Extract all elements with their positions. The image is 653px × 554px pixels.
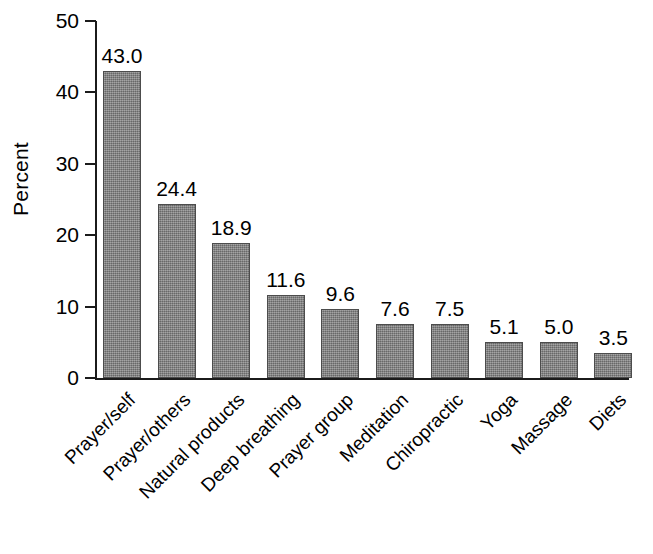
y-axis-line bbox=[95, 21, 97, 379]
bar bbox=[540, 342, 578, 378]
y-axis-tick-label: 50 bbox=[21, 10, 79, 31]
bar-value-label: 24.4 bbox=[142, 178, 212, 199]
y-axis-tick bbox=[85, 91, 96, 93]
bar bbox=[321, 309, 359, 378]
bar-chart: Percent 50403020100 43.024.418.911.69.67… bbox=[0, 0, 653, 554]
y-axis-tick bbox=[85, 20, 96, 22]
bar-value-label: 3.5 bbox=[578, 327, 648, 348]
y-axis-title: Percent bbox=[8, 119, 34, 239]
y-axis-tick bbox=[85, 234, 96, 236]
bar-value-label: 43.0 bbox=[87, 45, 157, 66]
bar bbox=[158, 204, 196, 378]
y-axis-tick-label: 40 bbox=[21, 81, 79, 102]
x-axis-line bbox=[95, 378, 629, 380]
y-axis-tick bbox=[85, 306, 96, 308]
y-axis-tick-label: 0 bbox=[21, 367, 79, 388]
y-axis-tick bbox=[85, 163, 96, 165]
bar-value-label: 18.9 bbox=[196, 217, 266, 238]
y-axis-tick-label: 20 bbox=[21, 224, 79, 245]
bar bbox=[594, 353, 632, 378]
y-axis-tick-label: 10 bbox=[21, 296, 79, 317]
bar bbox=[103, 71, 141, 378]
bar bbox=[431, 324, 469, 378]
bar bbox=[267, 295, 305, 378]
bar bbox=[485, 342, 523, 378]
bar bbox=[376, 324, 414, 378]
y-axis-tick-label: 30 bbox=[21, 153, 79, 174]
bar bbox=[212, 243, 250, 378]
